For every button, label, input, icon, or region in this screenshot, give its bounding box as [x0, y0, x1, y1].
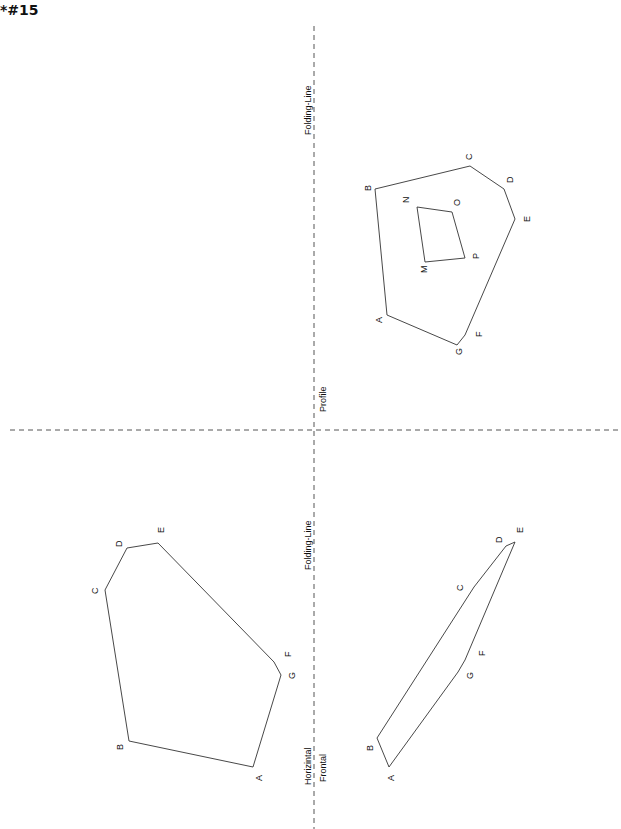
folding-line-bottom-label: Folding-Line — [303, 520, 313, 570]
frontal-view-labels: A B C D E F G — [365, 527, 525, 781]
frontal-label-A: A — [386, 775, 396, 781]
horizontal-view-polygon — [105, 543, 281, 767]
frontal-label-G: G — [465, 672, 475, 679]
horizontal-label-E: E — [156, 527, 166, 533]
profile-label-F: F — [474, 331, 484, 337]
frontal-label: Frontal — [318, 754, 328, 782]
profile-label-A: A — [374, 317, 384, 323]
profile-outer-polygon — [375, 166, 515, 345]
profile-label-C: C — [464, 153, 474, 160]
frontal-view-polygon — [377, 542, 515, 767]
orthographic-projection-diagram: Folding-Line Profile Folding-Line Horizi… — [0, 0, 621, 829]
profile-label-G: G — [454, 348, 464, 355]
profile-label-O: O — [452, 199, 462, 206]
frontal-label-B: B — [365, 745, 375, 751]
profile-outer-labels: A B C D E F G — [363, 153, 532, 355]
horizontal-label-D: D — [114, 540, 124, 547]
horizontal-label: Horizintal — [303, 747, 313, 785]
profile-label-P: P — [471, 253, 481, 259]
profile-label-E: E — [522, 216, 532, 222]
horizontal-label-C: C — [90, 587, 100, 594]
horizontal-label-A: A — [254, 775, 264, 781]
profile-label-D: D — [505, 176, 515, 183]
horizontal-label-B: B — [115, 744, 125, 750]
profile-inner-polygon — [417, 207, 465, 262]
folding-line-top-label: Folding-Line — [303, 85, 313, 135]
frontal-label-C: C — [455, 584, 465, 591]
profile-label-B: B — [363, 185, 373, 191]
frontal-label-D: D — [494, 536, 504, 543]
profile-label-M: M — [419, 266, 429, 274]
horizontal-label-G: G — [287, 672, 297, 679]
profile-label: Profile — [318, 386, 328, 412]
frontal-label-F: F — [477, 650, 487, 656]
profile-label-N: N — [401, 197, 411, 204]
profile-inner-labels: M N O P — [401, 197, 481, 274]
horizontal-label-F: F — [283, 651, 293, 657]
frontal-label-E: E — [515, 527, 525, 533]
